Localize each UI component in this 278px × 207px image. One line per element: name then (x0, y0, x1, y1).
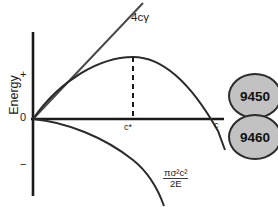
y-tick-zero: 0 (20, 111, 26, 123)
strain-energy-fraction-label: πσ²c² 2E (163, 168, 188, 189)
callout-bubble-9460[interactable]: 9460 (228, 114, 278, 160)
y-axis-label: Energy (7, 65, 21, 125)
energy-vs-crack-length-figure: Energy + 0 − c* c 4cγ πσ²c² 2E 9450 9460 (0, 0, 278, 207)
series-net-energy-parabola (33, 57, 225, 150)
callout-bubble-9460-label: 9460 (240, 130, 270, 145)
callout-bubble-9450[interactable]: 9450 (228, 73, 278, 119)
fraction-denominator: 2E (163, 179, 188, 189)
y-tick-positive: + (20, 68, 26, 80)
x-axis-label-c: c (214, 120, 219, 130)
y-tick-negative: − (20, 158, 26, 170)
surface-energy-line-label: 4cγ (131, 11, 149, 23)
series-surface-energy-line (33, 3, 143, 119)
x-tick-critical-length: c* (124, 122, 132, 132)
callout-bubble-9450-label: 9450 (240, 89, 270, 104)
series-strain-energy-curve (33, 119, 164, 206)
